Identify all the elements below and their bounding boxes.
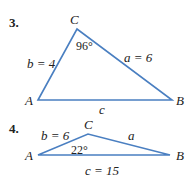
problem-4-number: 4. <box>9 121 19 136</box>
triangle-diagrams: 3. C 96° b = 4 a = 6 A B c 4. C b = 6 a … <box>0 0 195 181</box>
vertex-a-label: A <box>24 93 33 108</box>
angle-c-label: 96° <box>76 39 93 53</box>
triangle-problem-4: 4. C b = 6 a 22° A B c = 15 <box>9 117 184 178</box>
vertex-b-label: B <box>176 93 184 108</box>
side-c-label: c = 15 <box>85 163 120 178</box>
side-c-label: c <box>99 102 105 117</box>
vertex-b-label: B <box>176 148 184 163</box>
triangle-problem-3: 3. C 96° b = 4 a = 6 A B c <box>9 12 184 117</box>
side-b-label: b = 6 <box>41 128 70 143</box>
side-b-label: b = 4 <box>27 56 56 71</box>
problem-3-number: 3. <box>9 15 19 30</box>
vertex-c-label: C <box>70 12 79 27</box>
vertex-a-label: A <box>24 148 33 163</box>
side-a-label: a <box>128 128 135 143</box>
angle-c-label: 22° <box>71 143 88 157</box>
vertex-c-label: C <box>84 117 93 132</box>
side-a-label: a = 6 <box>124 50 153 65</box>
